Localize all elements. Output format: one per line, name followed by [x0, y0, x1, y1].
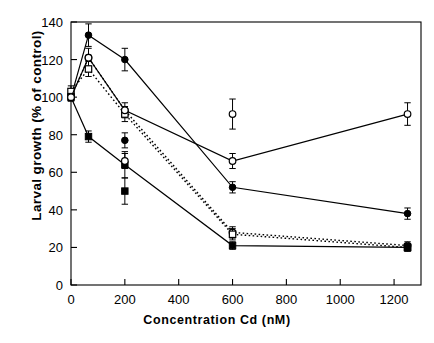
x-tick-label: 1000	[326, 292, 355, 307]
data-point-filled-circle	[229, 184, 236, 191]
series-filled-square-solid	[68, 93, 411, 251]
data-point-filled-circle	[85, 32, 92, 39]
series-open-circle-dotted	[68, 48, 411, 249]
series-open-circle-mid-solid	[68, 54, 411, 168]
data-point-open-circle	[122, 107, 129, 114]
data-point-open-circle	[229, 158, 236, 165]
series-line	[71, 97, 408, 247]
x-tick-label: 600	[222, 292, 244, 307]
tick-labels: 020406080100120140020040060080010001200	[41, 15, 408, 307]
data-point-filled-square	[229, 242, 235, 248]
x-tick-label: 400	[168, 292, 190, 307]
x-tick-label: 200	[114, 292, 136, 307]
y-tick-label: 40	[49, 203, 63, 218]
series-line	[71, 35, 408, 213]
data-point-open-circle	[122, 158, 129, 165]
y-tick-label: 20	[49, 240, 63, 255]
data-series	[68, 24, 411, 251]
series-filled-circle-solid	[68, 24, 411, 219]
data-point-open-circle	[404, 111, 411, 118]
y-tick-label: 0	[56, 278, 63, 293]
series-line	[71, 58, 408, 246]
x-tick-label: 800	[276, 292, 298, 307]
data-point-filled-circle	[122, 137, 129, 144]
point-open-circle-600-high	[229, 99, 236, 129]
y-tick-label: 80	[49, 128, 63, 143]
point-filled-square-200-low	[122, 178, 128, 204]
data-point-open-square	[85, 66, 91, 72]
data-point-filled-square	[85, 133, 91, 139]
data-point-open-circle	[229, 111, 236, 118]
chart-figure: Larval growth (% of control) Concentrati…	[0, 0, 434, 343]
data-point-open-circle	[85, 54, 92, 61]
x-tick-label: 0	[67, 292, 74, 307]
series-line	[71, 69, 408, 247]
data-point-filled-circle	[122, 56, 129, 63]
data-point-open-circle	[68, 94, 75, 101]
y-tick-label: 120	[41, 53, 63, 68]
x-tick-label: 1200	[380, 292, 409, 307]
data-point-filled-circle	[404, 210, 411, 217]
series-open-square-dotted	[68, 61, 411, 251]
data-point-filled-square	[404, 244, 410, 250]
y-tick-label: 60	[49, 165, 63, 180]
data-point-open-square	[229, 231, 235, 237]
data-point-filled-square	[122, 188, 128, 194]
plot-area: 020406080100120140020040060080010001200	[0, 0, 434, 343]
y-tick-label: 100	[41, 90, 63, 105]
point-filled-circle-200-low	[122, 133, 129, 148]
y-tick-label: 140	[41, 15, 63, 30]
